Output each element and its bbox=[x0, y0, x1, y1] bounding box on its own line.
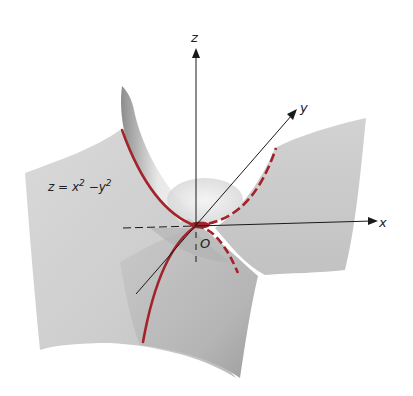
origin-label: O bbox=[200, 236, 210, 251]
x-axis-label: x bbox=[378, 215, 387, 230]
z-axis-label: z bbox=[190, 30, 199, 45]
equation-lhs: z = x bbox=[47, 180, 80, 194]
saddle-surface-figure: z y x O z = x2 −y2 bbox=[0, 0, 413, 396]
z-axis-arrowhead-icon bbox=[192, 48, 200, 58]
y-axis-label: y bbox=[299, 100, 308, 115]
equation-middle: −y bbox=[85, 180, 107, 194]
saddle-point-mark bbox=[190, 222, 210, 229]
equation-y-exponent: 2 bbox=[106, 178, 112, 188]
x-axis-arrowhead-icon bbox=[368, 217, 378, 225]
